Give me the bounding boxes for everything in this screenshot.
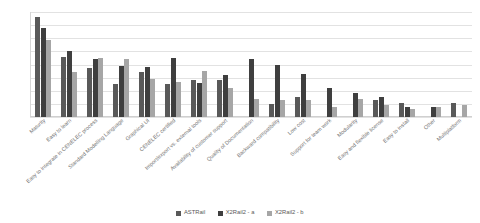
bar	[384, 105, 389, 117]
bar-group	[446, 12, 472, 117]
bar-group	[134, 12, 160, 117]
bar-group	[368, 12, 394, 117]
bar	[249, 59, 254, 117]
bar-group	[342, 12, 368, 117]
x-axis-labels: MaturityEasy to learnEasy to integrate i…	[30, 118, 472, 198]
bar	[145, 67, 150, 117]
bar-group	[290, 12, 316, 117]
bar-group	[186, 12, 212, 117]
bar-group	[394, 12, 420, 117]
x-axis-tick-label: Multiplatform	[436, 118, 463, 143]
bar	[176, 82, 181, 117]
bar	[358, 99, 363, 117]
bar	[451, 103, 456, 117]
legend-label: X2Rail2 - a	[226, 210, 255, 216]
bar	[67, 51, 72, 117]
legend-item: X2Rail2 - a	[218, 210, 254, 216]
x-axis-tick-label: Maturity	[29, 118, 47, 135]
bar	[431, 107, 436, 118]
bar	[165, 84, 170, 117]
legend-item: ASTRail	[176, 210, 205, 216]
bar	[93, 59, 98, 117]
bar	[275, 65, 280, 118]
bar	[98, 58, 103, 117]
bar	[295, 97, 300, 117]
bar	[197, 83, 202, 117]
legend-swatch-icon	[218, 211, 223, 216]
bar	[223, 75, 228, 117]
bar	[405, 107, 410, 118]
legend-swatch-icon	[176, 211, 181, 216]
legend-label: ASTRail	[184, 210, 205, 216]
x-axis-tick-label: Standard Modelling Language	[68, 118, 125, 170]
x-axis-tick-label: Easy to install	[382, 118, 410, 144]
bar	[301, 74, 306, 117]
bar	[280, 100, 285, 117]
bar	[327, 88, 332, 117]
legend-swatch-icon	[267, 211, 272, 216]
bar	[410, 109, 415, 117]
bar	[171, 58, 176, 117]
bar	[353, 93, 358, 117]
bar-group	[30, 12, 56, 117]
bar	[228, 88, 233, 117]
bar	[87, 68, 92, 117]
bar-group	[212, 12, 238, 117]
bar	[72, 72, 77, 117]
x-axis-tick-label: Low cost	[287, 118, 306, 136]
bar-group	[56, 12, 82, 117]
bar-chart: 80706050403020100 MaturityEasy to learnE…	[0, 0, 480, 223]
bar-group	[316, 12, 342, 117]
bar-group	[264, 12, 290, 117]
bar	[373, 100, 378, 117]
bar	[41, 28, 46, 117]
bar-group	[82, 12, 108, 117]
bar	[119, 66, 124, 117]
bar	[113, 84, 118, 117]
chart-legend: ASTRailX2Rail2 - aX2Rail2 - b	[0, 210, 480, 216]
bar	[202, 71, 207, 117]
bar	[124, 59, 129, 117]
bar	[269, 104, 274, 117]
x-axis-tick-label: Modularity	[337, 118, 359, 139]
bar-group	[108, 12, 134, 117]
bar-group	[420, 12, 446, 117]
legend-label: X2Rail2 - b	[275, 210, 304, 216]
bar	[139, 72, 144, 117]
bar-group	[160, 12, 186, 117]
bar	[436, 107, 441, 118]
bar	[254, 99, 259, 117]
bar	[46, 40, 51, 117]
x-axis-tick-label: Other	[423, 118, 437, 131]
bar	[306, 100, 311, 117]
bar	[35, 17, 40, 117]
bar	[399, 103, 404, 117]
legend-item: X2Rail2 - b	[267, 210, 303, 216]
x-axis-tick-label: Quality of Documentation	[206, 118, 255, 163]
plot-area: 80706050403020100	[30, 12, 472, 117]
bar	[462, 105, 467, 117]
bar	[332, 107, 337, 118]
bar	[217, 80, 222, 117]
bar	[61, 57, 66, 117]
bar	[150, 79, 155, 117]
bar-group	[238, 12, 264, 117]
bar	[379, 97, 384, 117]
bars-layer	[30, 12, 472, 117]
bar	[191, 80, 196, 117]
